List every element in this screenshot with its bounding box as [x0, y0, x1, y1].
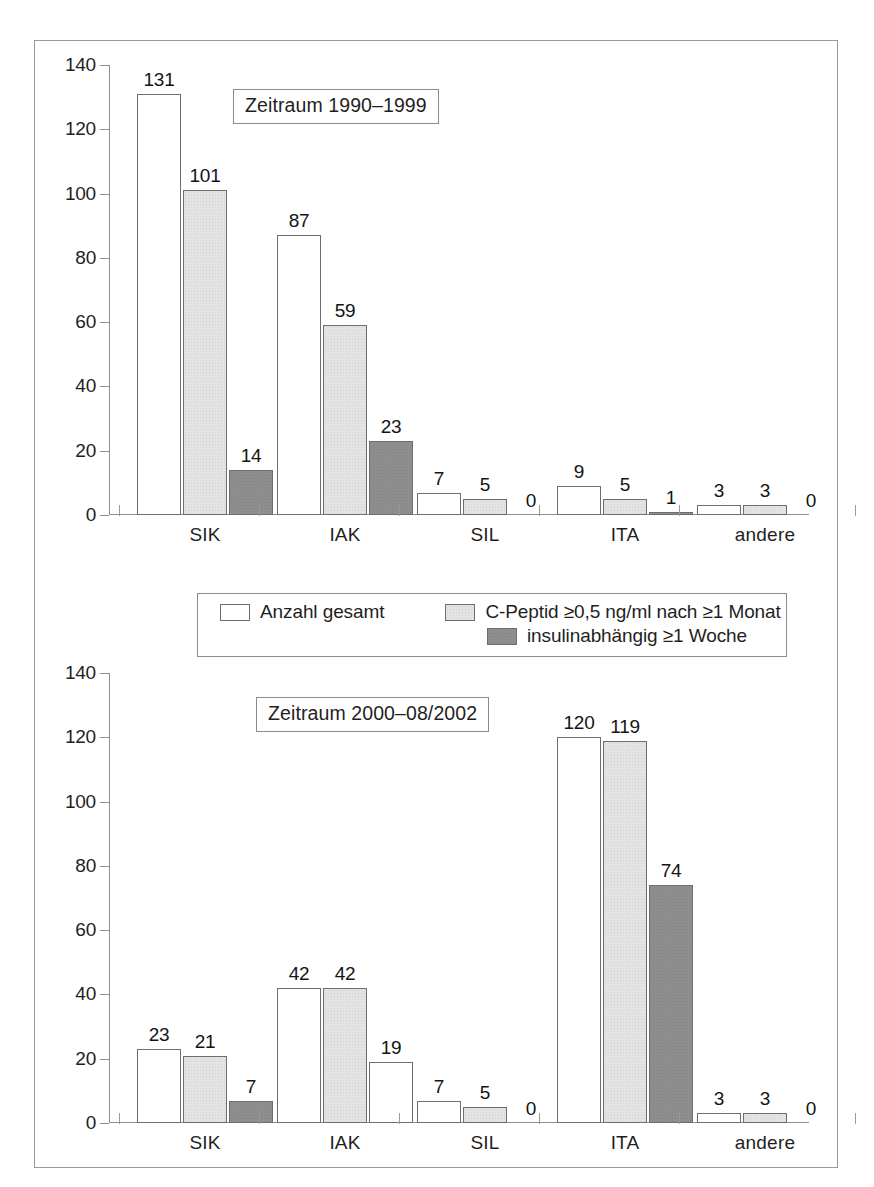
legend-label-c-peptid: C-Peptid ≥0,5 ng/ml nach ≥1 Monat	[485, 601, 780, 623]
bar-value-label: 87	[289, 210, 310, 232]
bar-sik-white	[137, 94, 181, 515]
plot-area-top: 02040608010012014013110114SIK875923IAK75…	[109, 65, 809, 515]
y-axis-tick-label: 80	[75, 247, 96, 269]
bar-value-label: 101	[190, 165, 221, 187]
bar-ita-dark-gray	[649, 512, 693, 515]
plot-area-bottom: 02040608010012014023217SIK424219IAK750SI…	[109, 673, 809, 1123]
bar-value-label: 5	[480, 474, 490, 496]
bar-value-label: 3	[760, 480, 770, 502]
bar-value-label: 23	[381, 416, 402, 438]
bar-value-label: 3	[760, 1088, 770, 1110]
y-axis-tick	[100, 194, 109, 195]
legend-row-primary: Anzahl gesamt C-Peptid ≥0,5 ng/ml nach ≥…	[198, 601, 786, 623]
y-axis-tick-label: 120	[65, 118, 96, 140]
x-axis-category-label: andere	[735, 1132, 795, 1154]
x-axis-category-label: ITA	[611, 1132, 640, 1154]
y-axis-tick-label: 0	[86, 1112, 96, 1134]
y-axis-tick	[100, 258, 109, 259]
bar-value-label: 5	[480, 1082, 490, 1104]
white-square-icon	[220, 604, 250, 621]
bar-group: 13110114SIK	[137, 65, 273, 515]
y-axis-tick-label: 100	[65, 183, 96, 205]
bar-value-label: 0	[526, 490, 536, 512]
bar-sik-dark-gray	[229, 1101, 273, 1124]
bar-sil-light-gray	[463, 499, 507, 515]
y-axis-tick-label: 60	[75, 919, 96, 941]
bar-group: 23217SIK	[137, 673, 273, 1123]
bar-value-label: 0	[526, 1098, 536, 1120]
x-axis-group-separator	[399, 1113, 400, 1124]
figure-frame: Zeitraum 1990–1999 020406080100120140131…	[34, 40, 838, 1168]
y-axis-tick-label: 20	[75, 1048, 96, 1070]
x-axis-group-separator	[539, 1113, 540, 1124]
bar-iak-white	[277, 235, 321, 515]
bar-value-label: 1	[666, 487, 676, 509]
y-axis-tick	[100, 129, 109, 130]
y-axis-tick	[100, 930, 109, 931]
bar-value-label: 7	[434, 1076, 444, 1098]
bar-sil-white	[417, 493, 461, 516]
bar-ita-dark-gray	[649, 885, 693, 1123]
bar-ita-white	[557, 486, 601, 515]
bar-ita-light-gray	[603, 741, 647, 1124]
legend-row-secondary: insulinabhängig ≥1 Woche	[198, 625, 786, 647]
y-axis-tick	[100, 451, 109, 452]
y-axis-tick	[100, 1123, 109, 1124]
bar-value-label: 3	[714, 480, 724, 502]
bar-group: 424219IAK	[277, 673, 413, 1123]
bar-sil-white	[417, 1101, 461, 1124]
bar-andere-white	[697, 505, 741, 515]
bar-value-label: 5	[620, 474, 630, 496]
bar-iak-dark-gray	[369, 1062, 413, 1123]
bar-group: 951ITA	[557, 65, 693, 515]
y-axis-tick	[100, 322, 109, 323]
y-axis-tick-label: 80	[75, 855, 96, 877]
bar-value-label: 59	[335, 300, 356, 322]
legend-item-anzahl-gesamt: Anzahl gesamt	[220, 601, 384, 623]
y-axis-tick-label: 60	[75, 311, 96, 333]
bar-sil-light-gray	[463, 1107, 507, 1123]
bar-value-label: 21	[195, 1031, 216, 1053]
y-axis-tick	[100, 802, 109, 803]
x-axis-group-separator	[855, 1113, 856, 1124]
y-axis-line-bottom	[109, 673, 110, 1123]
y-axis-tick	[100, 515, 109, 516]
legend-label-anzahl-gesamt: Anzahl gesamt	[260, 601, 384, 623]
y-axis-tick	[100, 866, 109, 867]
bar-value-label: 23	[149, 1024, 170, 1046]
bar-value-label: 7	[246, 1076, 256, 1098]
bar-group: 875923IAK	[277, 65, 413, 515]
bar-iak-white	[277, 988, 321, 1123]
bar-andere-white	[697, 1113, 741, 1123]
x-axis-group-separator	[399, 505, 400, 516]
y-axis-tick	[100, 994, 109, 995]
bar-iak-light-gray	[323, 988, 367, 1123]
bar-value-label: 119	[610, 716, 639, 738]
x-axis-group-separator	[679, 1113, 680, 1124]
bar-value-label: 42	[289, 963, 310, 985]
y-axis-tick-label: 120	[65, 726, 96, 748]
x-axis-group-separator	[259, 1113, 260, 1124]
dark-gray-square-icon	[487, 628, 517, 645]
y-axis-tick	[100, 1059, 109, 1060]
bar-value-label: 0	[806, 490, 816, 512]
bar-group: 330andere	[697, 673, 833, 1123]
y-axis-tick-label: 40	[75, 375, 96, 397]
y-axis-tick-label: 140	[65, 662, 96, 684]
x-axis-category-label: ITA	[611, 524, 640, 546]
bar-iak-dark-gray	[369, 441, 413, 515]
bar-sik-light-gray	[183, 1056, 227, 1124]
bar-ita-white	[557, 737, 601, 1123]
y-axis-tick-label: 100	[65, 791, 96, 813]
bar-iak-light-gray	[323, 325, 367, 515]
x-axis-group-separator	[679, 505, 680, 516]
y-axis-line-top	[109, 65, 110, 515]
x-axis-category-label: SIL	[470, 524, 499, 546]
bar-andere-light-gray	[743, 1113, 787, 1123]
legend-item-insulinabhaengig: insulinabhängig ≥1 Woche	[487, 625, 747, 647]
bar-value-label: 0	[806, 1098, 816, 1120]
chart-panel-bottom: Zeitraum 2000–08/2002 020406080100120140…	[35, 651, 839, 1163]
bar-value-label: 42	[335, 963, 356, 985]
y-axis-tick-label: 0	[86, 504, 96, 526]
x-axis-group-separator	[539, 505, 540, 516]
